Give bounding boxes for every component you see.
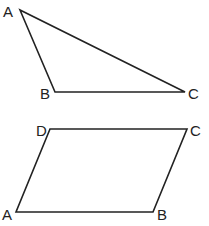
parallelogram-vertex-label-d: D (36, 122, 47, 139)
parallelogram-vertex-label-b: B (157, 206, 167, 223)
triangle-vertex-label-b: B (40, 85, 50, 102)
parallelogram-vertex-label-c: C (190, 122, 201, 139)
geometry-diagram: ABCDCBA (0, 0, 209, 226)
parallelogram-abcd (16, 129, 187, 212)
triangle-vertex-label-c: C (188, 85, 199, 102)
triangle-vertex-label-a: A (3, 3, 13, 20)
triangle-abc (20, 10, 185, 92)
parallelogram-vertex-label-a: A (2, 206, 12, 223)
